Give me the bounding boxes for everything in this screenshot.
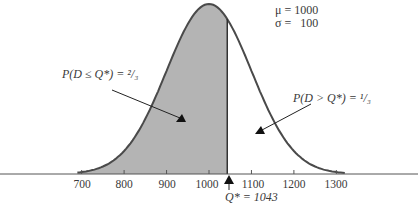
qstar-marker-icon [224, 175, 234, 184]
tick-label-900: 900 [158, 178, 175, 190]
tick-label-1200: 1200 [283, 178, 306, 190]
shaded-area-below-qstar [77, 4, 227, 174]
qstar-value-label: Q* = 1043 [225, 190, 278, 205]
tick-label-800: 800 [115, 178, 132, 190]
left-probability-label: P(D ≤ Q*) = ²/₃ [62, 67, 138, 82]
sigma-label: σ = 100 [275, 16, 318, 31]
tick-label-1000: 1000 [196, 178, 219, 190]
right-prob-arrowhead-icon [255, 126, 265, 134]
tick-label-700: 700 [73, 178, 90, 190]
right-prob-arrow-line [262, 104, 311, 130]
tick-label-1100: 1100 [242, 178, 265, 190]
right-probability-label: P(D > Q*) = ¹/₃ [293, 91, 371, 106]
tick-label-1300: 1300 [325, 178, 348, 190]
